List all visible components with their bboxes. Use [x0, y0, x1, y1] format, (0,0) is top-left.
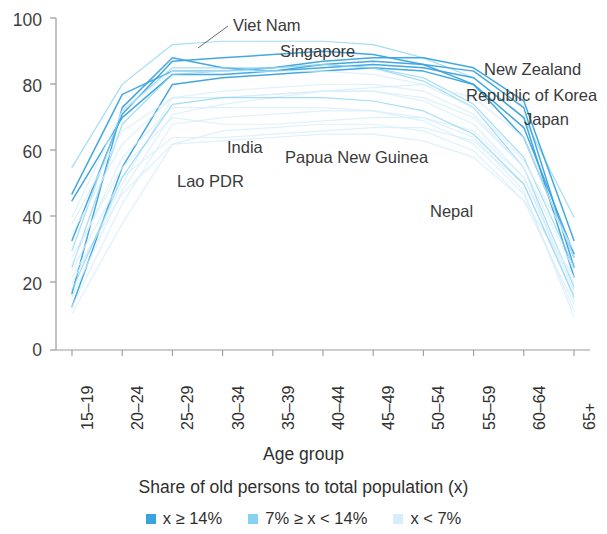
- legend-item-1[interactable]: 7% ≥ x < 14%: [248, 509, 367, 528]
- legend-swatch-icon-1: [248, 514, 258, 524]
- legend: x ≥ 14% 7% ≥ x < 14% x < 7%: [0, 509, 607, 528]
- legend-swatch-icon-0: [146, 514, 156, 524]
- country-label-republic-of-korea: Republic of Korea: [466, 86, 597, 105]
- x-tick-label-4: 35–39: [280, 386, 298, 431]
- country-label-india: India: [227, 138, 263, 157]
- chart-container: 100 80 60 40 20 0 15–1920–2425–2930–3: [0, 0, 607, 534]
- x-tick-label-1: 20–24: [129, 386, 147, 431]
- legend-title: Share of old persons to total population…: [0, 477, 607, 498]
- legend-swatch-icon-2: [393, 514, 403, 524]
- series-line: [72, 84, 574, 300]
- x-tick-label-0: 15–19: [79, 386, 97, 431]
- x-tick-label-7: 50–54: [430, 386, 448, 431]
- legend-item-0[interactable]: x ≥ 14%: [146, 509, 223, 528]
- x-tick-label-10: 65+: [581, 403, 599, 430]
- legend-label-1: 7% ≥ x < 14%: [265, 509, 367, 528]
- country-label-nepal: Nepal: [430, 202, 473, 221]
- country-label-singapore: Singapore: [280, 42, 355, 61]
- x-tick-label-5: 40–44: [330, 386, 348, 431]
- country-label-new-zealand: New Zealand: [484, 60, 581, 79]
- leader-line: [198, 26, 228, 48]
- x-tick-label-3: 30–34: [230, 386, 248, 431]
- country-label-japan: Japan: [524, 110, 569, 129]
- data-series-lines: [72, 41, 574, 317]
- legend-item-2[interactable]: x < 7%: [393, 509, 461, 528]
- x-tick-label-9: 60–64: [531, 386, 549, 431]
- legend-label-0: x ≥ 14%: [163, 509, 223, 528]
- x-tick-label-2: 25–29: [179, 386, 197, 431]
- series-line: [72, 98, 574, 297]
- legend-label-2: x < 7%: [410, 509, 461, 528]
- series-line: [72, 118, 574, 291]
- x-tick-label-6: 45–49: [380, 386, 398, 431]
- annotation-leader-lines: [198, 26, 228, 48]
- series-line: [72, 91, 574, 297]
- x-tick-label-8: 55–59: [481, 386, 499, 431]
- country-label-papua-new-guinea: Papua New Guinea: [285, 148, 428, 167]
- country-label-viet-nam: Viet Nam: [233, 16, 301, 35]
- x-axis-title: Age group: [0, 444, 607, 465]
- country-label-lao-pdr: Lao PDR: [177, 172, 244, 191]
